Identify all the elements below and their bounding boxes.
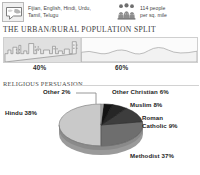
population-crowd-icon: [117, 2, 136, 22]
other-leader-line: [76, 91, 103, 104]
urban-rural-illustration-panel: [3, 37, 198, 63]
fact-population-density: 114 people per sq. mile: [117, 2, 167, 22]
urban-rural-heading: THE URBAN/RURAL POPULATION SPLIT: [3, 25, 156, 34]
speech-bubble-icon: [2, 2, 24, 22]
urban-rural-split-labels: 40% 60%: [3, 64, 198, 76]
pie-label-hindu: Hindu 38%: [5, 109, 37, 117]
pie-label-methodist: Methodist 37%: [130, 152, 174, 160]
pie-label-roman-catholic: Roman Catholic 9%: [142, 114, 178, 129]
urban-percent-label: 40%: [33, 64, 46, 71]
pie-label-muslim: Muslim 8%: [130, 101, 162, 109]
pie-label-other-christian: Other Christian 6%: [112, 88, 169, 96]
country-facts-row: Fijian, English, Hindi, Urdu, Tamil, Tel…: [0, 0, 200, 24]
rural-percent-label: 60%: [115, 64, 128, 71]
fact-population-density-text: 114 people per sq. mile: [136, 2, 167, 18]
fact-languages-text: Fijian, English, Hindi, Urdu, Tamil, Tel…: [24, 2, 91, 18]
religion-pie-chart: Other 2% Other Christian 6% Muslim 8% Ro…: [0, 86, 200, 175]
urban-rural-split-graphic: [4, 38, 197, 62]
pie-label-other: Other 2%: [43, 88, 71, 96]
fact-languages: Fijian, English, Hindi, Urdu, Tamil, Tel…: [2, 2, 91, 22]
